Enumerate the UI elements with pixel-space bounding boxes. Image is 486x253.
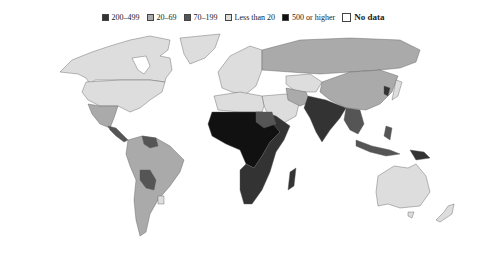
legend-label: Less than 20 bbox=[235, 13, 275, 22]
legend-swatch bbox=[282, 14, 289, 21]
region-australia bbox=[376, 164, 430, 208]
region-north-africa bbox=[214, 92, 264, 112]
legend-label: 70–199 bbox=[194, 13, 218, 22]
legend-item-no-data: No data bbox=[342, 12, 384, 22]
legend-swatch bbox=[102, 14, 109, 21]
legend-item-20-69: 20–69 bbox=[147, 13, 177, 22]
region-philippines bbox=[384, 126, 392, 140]
world-map bbox=[0, 28, 486, 253]
region-png bbox=[410, 150, 430, 160]
region-europe bbox=[218, 46, 262, 94]
legend-item-less-than-20: Less than 20 bbox=[225, 13, 275, 22]
region-greenland bbox=[180, 34, 220, 64]
legend-item-200-499: 200–499 bbox=[102, 13, 140, 22]
legend-swatch bbox=[342, 13, 351, 22]
legend-swatch bbox=[184, 14, 191, 21]
legend-label: 500 or higher bbox=[292, 13, 335, 22]
region-central-america bbox=[108, 126, 128, 142]
region-indonesia bbox=[356, 140, 400, 156]
region-russia bbox=[262, 38, 420, 74]
region-new-zealand bbox=[436, 204, 454, 222]
map-legend: 200–499 20–69 70–199 Less than 20 500 or… bbox=[0, 12, 486, 22]
legend-label: No data bbox=[354, 12, 384, 22]
region-madagascar bbox=[288, 168, 296, 190]
legend-item-70-199: 70–199 bbox=[184, 13, 218, 22]
legend-item-500-or-higher: 500 or higher bbox=[282, 13, 335, 22]
legend-label: 200–499 bbox=[112, 13, 140, 22]
region-mexico bbox=[88, 104, 118, 128]
region-canada bbox=[60, 36, 172, 84]
legend-swatch bbox=[225, 14, 232, 21]
region-southeast-asia bbox=[344, 108, 364, 134]
legend-label: 20–69 bbox=[157, 13, 177, 22]
legend-swatch bbox=[147, 14, 154, 21]
region-uruguay bbox=[158, 196, 164, 204]
region-tasmania bbox=[408, 212, 414, 218]
